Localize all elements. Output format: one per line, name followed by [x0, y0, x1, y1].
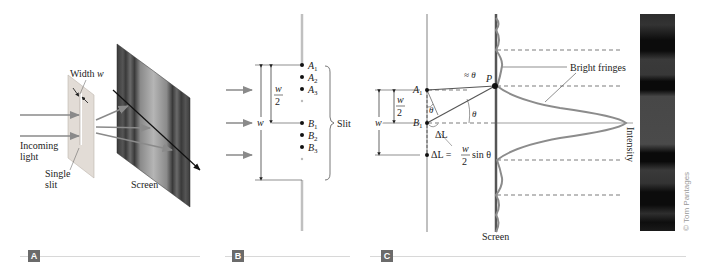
- label-approx-theta: ≈ θ: [464, 70, 476, 80]
- label-slit-b: Slit: [337, 118, 351, 129]
- label-delta-l: ΔL: [435, 129, 448, 140]
- label-a1-c: A1: [412, 84, 423, 97]
- label-screen: Screen: [131, 179, 158, 190]
- label-slit: slit: [45, 179, 57, 190]
- label-half-w-den: 2: [275, 96, 280, 107]
- panel-a: Width w Incoming light Single slit Scree…: [20, 44, 200, 207]
- label-theta-inner: θ: [429, 105, 434, 115]
- photo-credit: © Tom Pantages: [682, 172, 691, 231]
- label-a3: A3: [307, 84, 318, 97]
- label-incoming: Incoming: [20, 140, 58, 151]
- label-frac-den: 2: [462, 156, 467, 167]
- label-half-w-num-c: w: [397, 94, 404, 105]
- panel-b: A1 A2 A3 B1 B2 B3 w 2 w Slit: [226, 14, 351, 231]
- label-screen-c: Screen: [482, 231, 509, 242]
- point-p: [492, 83, 498, 89]
- panel-c: w w 2 A1 B1 ≈ θ P θ θ ΔL ΔL = w 2 sin θ …: [375, 14, 675, 242]
- label-w-c: w: [375, 117, 382, 128]
- label-w: w: [257, 117, 264, 128]
- label-bright-fringes: Bright fringes: [570, 62, 626, 73]
- label-delta-l-eq: ΔL =: [431, 149, 452, 160]
- label-b3: B3: [308, 142, 318, 155]
- fringe-photo: [640, 14, 675, 231]
- label-half-w-den-c: 2: [397, 107, 402, 118]
- panel-tag-b: B: [232, 250, 244, 262]
- label-single: Single: [45, 168, 71, 179]
- slit-brace: [325, 66, 334, 180]
- label-frac-num: w: [462, 143, 469, 154]
- single-slit-diffraction-figure: Width w Incoming light Single slit Scree…: [0, 0, 706, 278]
- panel-tag-a: A: [28, 250, 40, 262]
- panel-tag-c: C: [381, 250, 393, 262]
- label-sin-theta: sin θ: [472, 149, 491, 160]
- label-p: P: [485, 73, 492, 84]
- label-width: Width w: [70, 68, 104, 79]
- label-intensity: Intensity: [625, 127, 636, 162]
- label-b1-c: B1: [413, 117, 423, 130]
- label-theta: θ: [472, 109, 477, 119]
- label-half-w-num: w: [275, 83, 282, 94]
- label-light: light: [20, 151, 39, 162]
